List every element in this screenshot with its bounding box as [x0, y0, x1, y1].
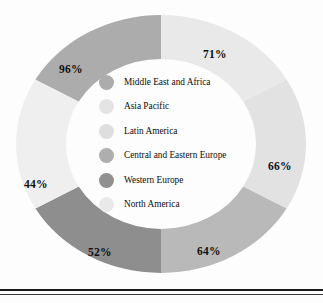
segment-value-asia-pacific: 44%	[24, 178, 48, 190]
footer-rule-thin	[0, 294, 323, 295]
chart-legend: Middle East and AfricaAsia PacificLatin …	[99, 70, 259, 217]
legend-item[interactable]: Central and Eastern Europe	[99, 144, 259, 169]
legend-item[interactable]: Middle East and Africa	[99, 70, 259, 95]
legend-swatch-icon	[99, 99, 114, 114]
segment-value-western-europe: 66%	[268, 160, 292, 172]
segment-value-north-america: 71%	[203, 48, 227, 60]
legend-item-label: Middle East and Africa	[124, 78, 211, 87]
legend-item[interactable]: North America	[99, 193, 259, 218]
segment-value-central-and-eastern-europe: 64%	[197, 245, 221, 257]
legend-item[interactable]: Asia Pacific	[99, 95, 259, 120]
legend-swatch-icon	[99, 148, 114, 163]
legend-swatch-icon	[99, 197, 114, 212]
segment-value-middle-east-and-africa: 96%	[59, 63, 83, 75]
legend-item-label: Asia Pacific	[124, 102, 169, 111]
legend-item-label: Central and Eastern Europe	[124, 151, 226, 160]
legend-item-label: North America	[124, 200, 180, 209]
legend-item-label: Latin America	[124, 127, 177, 136]
legend-swatch-icon	[99, 173, 114, 188]
donut-chart-figure: 71% 66% 64% 52% 44% 96% Middle East and …	[0, 0, 323, 303]
legend-item[interactable]: Latin America	[99, 119, 259, 144]
legend-swatch-icon	[99, 124, 114, 139]
legend-item[interactable]: Western Europe	[99, 168, 259, 193]
legend-item-label: Western Europe	[124, 176, 183, 185]
footer-rule-thick	[0, 289, 323, 291]
segment-value-latin-america: 52%	[88, 246, 112, 258]
legend-swatch-icon	[99, 75, 114, 90]
